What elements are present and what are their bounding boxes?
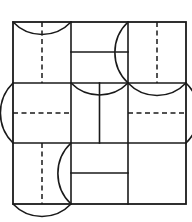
geometry-figure bbox=[0, 0, 192, 222]
grid-diagram-svg bbox=[0, 0, 192, 222]
figure-background bbox=[0, 0, 192, 222]
